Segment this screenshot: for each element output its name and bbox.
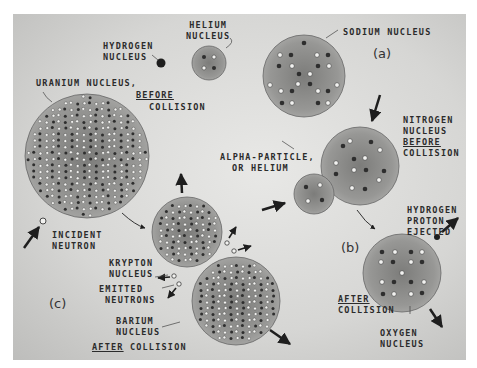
after-collision-label-c: AFTER COLLISION bbox=[92, 342, 187, 353]
uranium-before-label: BEFORE bbox=[136, 90, 174, 101]
nuclei-illustration bbox=[13, 14, 466, 360]
diagram-panel: HYDROGENNUCLEUS HELIUMNUCLEUS SODIUM NUC… bbox=[13, 14, 466, 360]
after-collision-label-b: AFTERCOLLISION bbox=[338, 294, 395, 316]
nitrogen-nucleus-label: NITROGENNUCLEUSBEFORECOLLISION bbox=[403, 115, 460, 159]
alpha-particle bbox=[294, 174, 334, 214]
sodium-nucleus bbox=[263, 35, 345, 117]
alpha-particle-label: ALPHA-PARTICLE,OR HELIUM bbox=[220, 152, 315, 174]
panel-tag-b: (b) bbox=[341, 240, 359, 255]
barium-nucleus-label: BARIUMNUCLEUS bbox=[116, 316, 160, 338]
incident-neutron bbox=[40, 218, 46, 224]
krypton-nucleus-label: KRYPTONNUCLEUS bbox=[109, 258, 153, 280]
hydrogen-nucleus-label: HYDROGENNUCLEUS bbox=[103, 41, 154, 63]
alpha-arrow bbox=[262, 203, 285, 210]
uranium-to-krypton-arrow bbox=[122, 213, 145, 228]
uranium-collision-label: COLLISION bbox=[149, 102, 206, 113]
oxygen-nucleus-label: OXYGENNUCLEUS bbox=[380, 328, 424, 350]
nitrogen-arrow bbox=[372, 95, 380, 121]
panel-tag-c: (c) bbox=[49, 296, 66, 311]
krypton-nucleus bbox=[152, 197, 222, 267]
nitrogen-to-oxygen-arrow bbox=[357, 210, 375, 229]
uranium-nucleus bbox=[25, 94, 149, 218]
barium-nucleus bbox=[192, 257, 280, 345]
emitted-neutrons-label: EMITTEDNEUTRONS bbox=[99, 284, 156, 306]
sodium-nucleus-label: SODIUM NUCLEUS bbox=[343, 27, 431, 38]
panel-tag-a: (a) bbox=[373, 46, 391, 61]
helium-nucleus-label: HELIUMNUCLEUS bbox=[186, 20, 230, 42]
helium-nucleus bbox=[192, 46, 226, 80]
barium-arrow bbox=[270, 330, 290, 344]
incident-neutron-label: INCIDENTNEUTRON bbox=[52, 230, 103, 252]
krypton-arrow bbox=[181, 174, 182, 193]
hydrogen-proton-label: HYDROGENPROTONEJECTED bbox=[407, 205, 458, 238]
uranium-nucleus-label: URANIUM NUCLEUS, bbox=[36, 78, 137, 89]
oxygen-arrow bbox=[430, 309, 442, 327]
incident-arrow bbox=[24, 227, 39, 248]
